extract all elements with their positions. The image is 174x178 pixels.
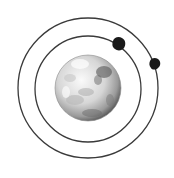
inner-moon-icon [112, 37, 125, 50]
planet-orbit-diagram [0, 0, 174, 178]
